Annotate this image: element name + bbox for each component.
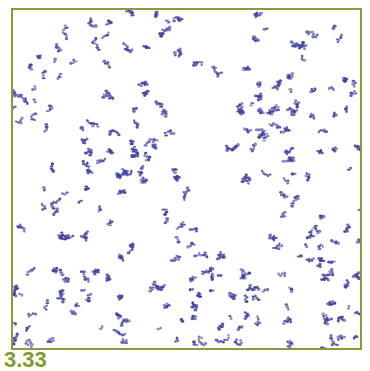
bacterial-cells-image xyxy=(13,10,360,348)
figure-number-label: 3.33 xyxy=(4,349,47,371)
micrograph-frame xyxy=(11,8,362,350)
